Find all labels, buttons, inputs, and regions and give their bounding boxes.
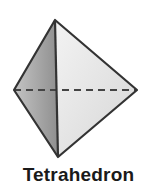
figure-caption: Tetrahedron: [0, 164, 157, 186]
left-face: [14, 20, 58, 157]
right-face: [55, 20, 137, 157]
tetrahedron-diagram: [0, 0, 157, 191]
